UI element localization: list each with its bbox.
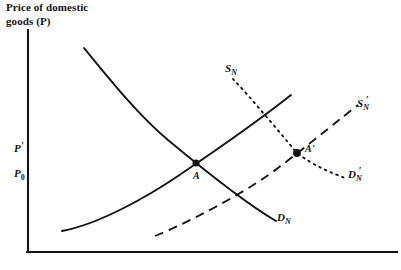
curve-label-demand-initial: DN [277,211,291,226]
y-tick-price-zero-base: P [14,167,21,179]
curve-label-demand-initial-base: D [277,211,285,223]
curve-label-demand-shifted: DN′ [348,168,365,183]
curve-label-supply-initial: SN [225,62,237,77]
y-tick-price-zero: P0 [14,167,25,182]
y-axis-title-line1: Price of domestic [6,1,88,13]
point-a [192,159,199,166]
y-tick-price-prime-base: P [14,142,21,154]
supply-demand-figure [0,0,401,270]
y-axis-title-line2: goods (P) [6,15,51,27]
y-axis-title: Price of domestic goods (P) [6,1,186,28]
supply-curve-initial [62,95,291,231]
curve-label-demand-shifted-base: D [348,168,356,180]
curve-label-supply-shifted-mark: ′ [366,94,369,105]
axes-group [27,30,397,252]
y-tick-price-prime-mark: ′ [21,140,24,151]
point-label-a: A [193,170,200,181]
curve-label-demand-initial-sub: N [285,217,291,226]
point-label-a-prime-text: A' [305,143,314,154]
curve-label-demand-shifted-mark: ′ [359,165,362,176]
demand-curve-shifted [233,79,345,178]
point-label-a-prime: A' [305,143,314,154]
curve-label-supply-initial-sub: N [231,68,237,77]
demand-curve-initial [84,48,276,221]
curve-label-supply-shifted: SN′ [357,97,372,112]
point-label-a-text: A [193,170,200,181]
y-tick-price-prime: P′ [14,142,24,154]
point-a-prime [293,149,301,157]
y-tick-price-zero-sub: 0 [21,173,25,182]
